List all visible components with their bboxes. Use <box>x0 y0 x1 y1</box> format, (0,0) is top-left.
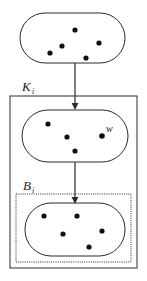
middle-stadium-dot-2 <box>64 134 69 139</box>
label-k-main: K <box>21 79 32 94</box>
bottom-stadium-dot-4 <box>99 228 104 233</box>
top-stadium-dot-1 <box>72 27 77 32</box>
set-inclusion-diagram: K i w B i <box>0 0 147 281</box>
top-stadium-dot-2 <box>59 43 64 48</box>
label-b: B i <box>23 178 34 195</box>
label-k-subscript: i <box>32 87 34 96</box>
top-stadium-dot-3 <box>96 40 101 45</box>
bottom-stadium-dot-2 <box>74 213 79 218</box>
bottom-stadium-dot-1 <box>41 213 46 218</box>
middle-stadium-dot-1 <box>45 121 50 126</box>
arrow-top-to-middle <box>72 63 79 110</box>
arrow-middle-to-bottom <box>72 162 79 204</box>
top-stadium-group <box>20 13 125 63</box>
diagram-canvas: K i w B i <box>0 0 147 281</box>
bottom-stadium-dot-5 <box>86 244 91 249</box>
middle-stadium <box>22 110 128 162</box>
middle-stadium-group: w <box>22 110 128 162</box>
bottom-stadium-group <box>25 203 125 256</box>
arrow-top-to-middle-head <box>72 103 79 110</box>
middle-stadium-dot-w <box>99 133 105 139</box>
label-w: w <box>106 123 113 134</box>
label-b-main: B <box>23 178 31 193</box>
top-stadium-dot-5 <box>83 55 88 60</box>
label-k: K i <box>21 79 34 96</box>
top-stadium-dot-4 <box>47 50 52 55</box>
bottom-stadium-dot-3 <box>60 231 65 236</box>
middle-stadium-dot-3 <box>72 148 77 153</box>
bottom-stadium <box>25 203 125 256</box>
top-stadium <box>20 13 125 63</box>
